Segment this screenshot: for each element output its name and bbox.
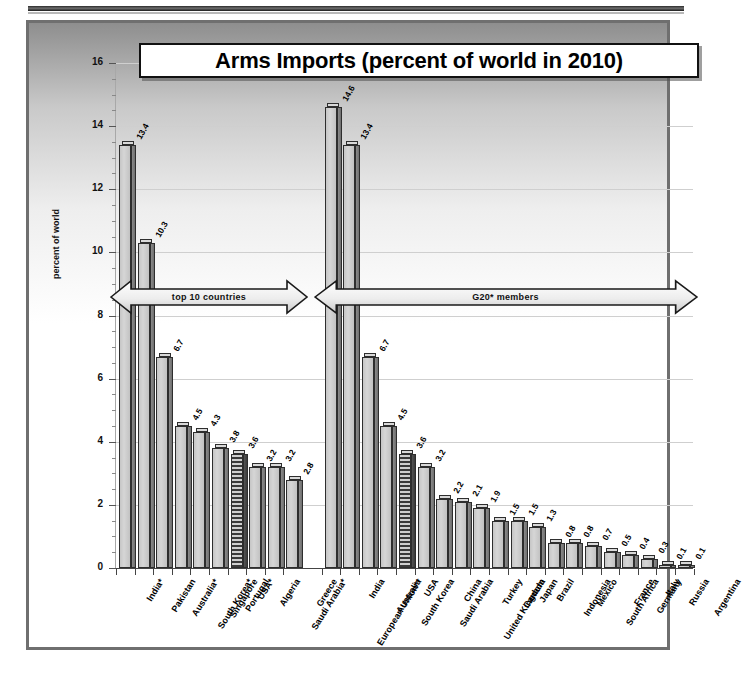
bar-side-face <box>224 448 229 568</box>
bar-side-face <box>243 454 248 568</box>
bar <box>212 444 229 568</box>
bar-front-face <box>343 145 355 568</box>
bar-side-face <box>616 552 621 568</box>
bar-top-face <box>532 523 544 527</box>
bar-top-face <box>346 141 358 145</box>
bar-value-label: 0.8 <box>581 524 596 539</box>
x-tick <box>322 569 323 575</box>
y-tick-label: 12 <box>77 182 103 193</box>
bar <box>473 504 490 568</box>
bar-value-label: 2.8 <box>301 460 316 475</box>
bar-top-face <box>513 517 525 521</box>
annotation-arrow-top10: top 10 countries <box>109 279 309 315</box>
x-axis-category-label: Argentina <box>712 577 742 618</box>
y-minor-tick <box>112 268 116 269</box>
y-tick-label: 6 <box>77 372 103 383</box>
chart-title: Arms Imports (percent of world in 2010) <box>215 48 623 74</box>
x-axis-category-label: Algeria <box>278 577 303 608</box>
x-tick <box>172 569 173 575</box>
bar-top-face <box>364 353 376 357</box>
bar <box>231 450 248 568</box>
bar-side-face <box>485 508 490 568</box>
bar <box>193 428 210 568</box>
bar-side-face <box>448 499 453 568</box>
y-tick-label: 14 <box>77 119 103 130</box>
y-minor-tick <box>112 363 116 364</box>
bar-front-face <box>418 467 430 568</box>
chart-frame: Arms Imports (percent of world in 2010) … <box>26 20 670 650</box>
bar-value-label: 0.3 <box>656 539 671 554</box>
bar-front-face <box>212 448 224 568</box>
y-minor-tick <box>112 205 116 206</box>
x-tick <box>209 569 210 575</box>
bar-value-label: 1.5 <box>526 501 541 516</box>
bar-front-face <box>119 145 131 568</box>
x-tick <box>582 569 583 575</box>
bar-side-face <box>337 107 342 568</box>
bar-front-face <box>604 552 616 568</box>
bar-top-face <box>494 517 506 521</box>
bar-front-face <box>548 543 560 568</box>
annotation-arrow-g20: G20* members <box>313 279 699 315</box>
x-tick <box>116 569 117 575</box>
bar-top-face <box>643 555 655 559</box>
y-minor-tick <box>112 552 116 553</box>
bar-top-face <box>587 542 599 546</box>
bar-top-face <box>401 450 413 454</box>
y-minor-tick <box>112 347 116 348</box>
bar-top-face <box>159 353 171 357</box>
bar <box>119 141 136 568</box>
x-tick <box>508 569 509 575</box>
bar-side-face <box>430 467 435 568</box>
bar-side-face <box>374 357 379 568</box>
x-tick <box>638 569 639 575</box>
bar-front-face <box>380 426 392 568</box>
bar-front-face <box>399 454 411 568</box>
y-minor-tick <box>112 95 116 96</box>
annotation-label-g20: G20* members <box>313 279 699 315</box>
bar-value-label: 3.2 <box>264 448 279 463</box>
bar <box>362 353 379 568</box>
x-tick <box>228 569 229 575</box>
bar-front-face <box>566 543 578 568</box>
bar-side-face <box>168 357 173 568</box>
bar <box>659 561 676 568</box>
y-major-tick <box>109 189 116 190</box>
bar-front-face <box>678 565 690 568</box>
bar-side-face <box>280 467 285 568</box>
bar <box>436 495 453 568</box>
y-tick-label: 2 <box>77 498 103 509</box>
bar-value-label: 3.2 <box>283 448 298 463</box>
bar-side-face <box>392 426 397 568</box>
bar-top-face <box>383 422 395 426</box>
x-tick <box>265 569 266 575</box>
bar <box>548 539 565 568</box>
bar-top-face <box>625 551 637 555</box>
chart-title-box: Arms Imports (percent of world in 2010) <box>139 43 699 78</box>
bar <box>566 539 583 568</box>
bar-side-face <box>467 502 472 568</box>
gridline <box>115 379 693 380</box>
bar-front-face <box>175 426 187 568</box>
bar-top-face <box>550 539 562 543</box>
bar-top-face <box>680 561 692 565</box>
y-minor-tick <box>112 536 116 537</box>
bar-side-face <box>541 527 546 568</box>
x-tick <box>619 569 620 575</box>
x-axis-category-label: India <box>367 577 387 600</box>
y-minor-tick <box>112 221 116 222</box>
x-tick <box>283 569 284 575</box>
bar-value-label: 3.2 <box>433 448 448 463</box>
bar <box>175 422 192 568</box>
gridline <box>115 189 693 190</box>
bar-front-face <box>585 546 597 568</box>
bar <box>455 498 472 568</box>
y-major-tick <box>109 252 116 253</box>
x-tick <box>396 569 397 575</box>
bar-value-label: 1.3 <box>544 508 559 523</box>
bar <box>529 523 546 568</box>
x-tick <box>190 569 191 575</box>
y-major-tick <box>109 63 116 64</box>
x-axis-category-label: India* <box>145 577 166 603</box>
bar-front-face <box>455 502 467 568</box>
